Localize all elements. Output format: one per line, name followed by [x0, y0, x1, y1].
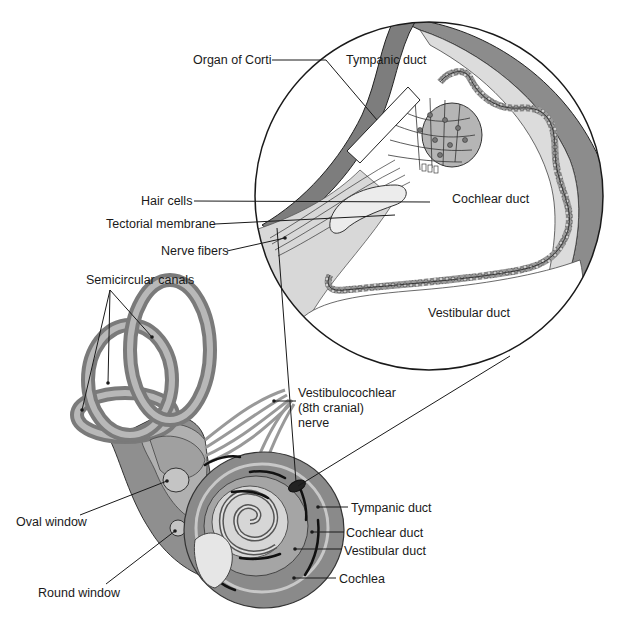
label-vestibulocochlear-line3: nerve	[298, 416, 418, 431]
diagram-canvas	[0, 0, 621, 617]
label-vestibulocochlear-line1: Vestibulocochlear	[298, 386, 418, 401]
magnified-cross-section	[255, 18, 609, 377]
label-inset-cochlear-duct: Cochlear duct	[452, 192, 529, 206]
label-main-vestibular-duct: Vestibular duct	[344, 544, 426, 558]
inner-ear-diagram: Organ of Corti Tympanic duct Cochlear du…	[0, 0, 621, 617]
label-round-window: Round window	[38, 586, 120, 600]
label-inset-tympanic-duct: Tympanic duct	[346, 53, 427, 67]
label-organ-of-corti: Organ of Corti	[193, 53, 272, 67]
label-hair-cells: Hair cells	[141, 194, 192, 208]
label-main-tympanic-duct: Tympanic duct	[351, 501, 432, 515]
cochlea	[184, 452, 344, 608]
label-vestibulocochlear-line2: (8th cranial)	[298, 401, 418, 416]
label-oval-window: Oval window	[16, 515, 87, 529]
label-main-cochlear-duct: Cochlear duct	[346, 526, 423, 540]
label-inset-vestibular-duct: Vestibular duct	[428, 306, 510, 320]
label-nerve-fibers: Nerve fibers	[161, 244, 228, 258]
label-tectorial-membrane: Tectorial membrane	[106, 217, 216, 231]
label-cochlea: Cochlea	[339, 572, 385, 586]
label-semicircular-canals: Semicircular canals	[86, 273, 194, 287]
label-vestibulocochlear-nerve: Vestibulocochlear (8th cranial) nerve	[298, 386, 418, 431]
inner-ear-structure	[77, 280, 344, 608]
